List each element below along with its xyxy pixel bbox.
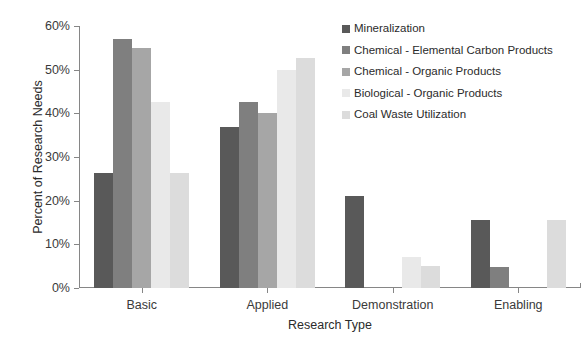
y-tick-label: 40% [45, 106, 70, 120]
y-tick-mark [74, 70, 79, 71]
legend-swatch-icon [342, 46, 350, 54]
legend-item: Chemical - Organic Products [342, 65, 553, 78]
x-tick-label: Enabling [438, 298, 588, 312]
bar [345, 196, 364, 288]
y-tick-mark [74, 157, 79, 158]
legend-label: Coal Waste Utilization [354, 108, 466, 121]
x-tick-mark [267, 288, 268, 293]
x-tick-mark [393, 288, 394, 293]
y-tick-label: 50% [45, 63, 70, 77]
y-tick-label: 60% [45, 19, 70, 33]
bar [547, 220, 566, 288]
legend-label: Chemical - Organic Products [354, 65, 501, 78]
bar [113, 39, 132, 288]
bar [402, 257, 421, 288]
bar [220, 127, 239, 288]
x-tick-mark [518, 288, 519, 293]
y-tick-mark [74, 26, 79, 27]
bar-group: Applied [220, 26, 315, 288]
y-tick-label: 20% [45, 194, 70, 208]
bar [94, 173, 113, 288]
y-tick-label: 0% [52, 281, 70, 295]
legend-label: Chemical - Elemental Carbon Products [354, 44, 553, 57]
chart-legend: MineralizationChemical - Elemental Carbo… [342, 22, 553, 121]
bar [132, 48, 151, 288]
bar [151, 102, 170, 288]
y-tick-label: 30% [45, 150, 70, 164]
bar-chart: Percent of Research Needs 0%10%20%30%40%… [0, 0, 588, 341]
bar [277, 70, 296, 288]
y-tick-mark [74, 113, 79, 114]
x-tick-mark [142, 288, 143, 293]
y-axis-title: Percent of Research Needs [31, 27, 45, 287]
bar [258, 113, 277, 288]
legend-item: Coal Waste Utilization [342, 108, 553, 121]
bar [490, 267, 509, 288]
legend-item: Biological - Organic Products [342, 87, 553, 100]
y-tick-mark [74, 244, 79, 245]
y-tick-mark [74, 201, 79, 202]
legend-swatch-icon [342, 25, 350, 33]
y-tick-mark [74, 288, 79, 289]
y-axis-line [79, 26, 80, 288]
y-tick-label: 10% [45, 237, 70, 251]
legend-label: Biological - Organic Products [354, 87, 502, 100]
bar [421, 266, 440, 288]
legend-swatch-icon [342, 111, 350, 119]
bar-group: Basic [94, 26, 189, 288]
legend-label: Mineralization [354, 22, 425, 35]
x-axis-end-cap [580, 283, 581, 288]
bar [471, 220, 490, 288]
legend-item: Chemical - Elemental Carbon Products [342, 44, 553, 57]
legend-item: Mineralization [342, 22, 553, 35]
bar [296, 58, 315, 288]
legend-swatch-icon [342, 89, 350, 97]
legend-swatch-icon [342, 68, 350, 76]
x-axis-title: Research Type [79, 318, 581, 332]
bar [170, 173, 189, 288]
bar [239, 102, 258, 288]
